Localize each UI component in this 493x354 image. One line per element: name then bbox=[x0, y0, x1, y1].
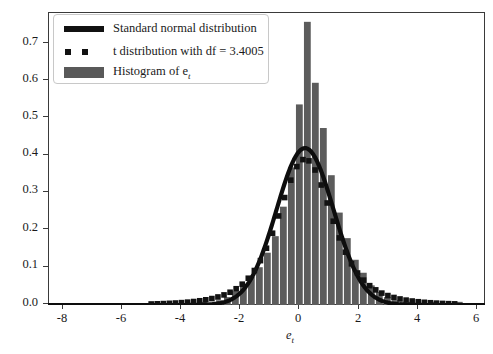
t-distribution-marker bbox=[379, 290, 385, 296]
t-distribution-marker bbox=[324, 200, 330, 206]
ytick-label-5: 0.2 bbox=[4, 220, 38, 235]
t-distribution-marker bbox=[185, 299, 191, 305]
legend-label-histogram: Histogram of et bbox=[113, 64, 191, 81]
t-distribution-marker bbox=[245, 275, 251, 281]
legend-entry-histogram: Histogram of et bbox=[54, 61, 268, 84]
legend-label-tdist: t distribution with df = 3.4005 bbox=[113, 44, 264, 59]
histogram-bar bbox=[288, 167, 295, 305]
t-distribution-marker bbox=[191, 299, 197, 305]
t-distribution-marker bbox=[161, 301, 167, 305]
t-distribution-marker bbox=[197, 298, 203, 304]
histogram-bar bbox=[272, 236, 279, 305]
t-distribution-marker bbox=[330, 218, 336, 224]
histogram-bar bbox=[312, 83, 319, 305]
t-distribution-marker bbox=[306, 158, 312, 164]
t-distribution-marker bbox=[318, 182, 324, 188]
t-distribution-marker bbox=[215, 294, 221, 300]
t-distribution-marker bbox=[221, 292, 227, 298]
t-distribution-marker bbox=[154, 301, 160, 305]
histogram-bar bbox=[320, 128, 327, 305]
legend-key-patch-icon bbox=[61, 65, 107, 81]
t-distribution-marker bbox=[428, 300, 434, 305]
ytick-label-6: 0.1 bbox=[4, 257, 38, 272]
t-distribution-marker bbox=[258, 258, 264, 264]
t-distribution-marker bbox=[452, 301, 458, 305]
t-distribution-marker bbox=[270, 230, 276, 236]
t-distribution-marker bbox=[276, 213, 282, 219]
t-distribution-marker bbox=[179, 300, 185, 305]
t-distribution-marker bbox=[282, 195, 288, 201]
ytick-label-2: 0.5 bbox=[4, 108, 38, 123]
legend-key-line-icon bbox=[61, 21, 107, 37]
t-distribution-marker bbox=[294, 164, 300, 170]
t-distribution-marker bbox=[403, 297, 409, 303]
xtick-label-0: -8 bbox=[48, 311, 76, 326]
t-distribution-marker bbox=[422, 300, 428, 306]
legend-key-squares-icon bbox=[61, 44, 107, 60]
x-axis-title-sub: t bbox=[292, 335, 295, 345]
t-distribution-marker bbox=[409, 298, 415, 304]
t-distribution-marker bbox=[239, 281, 245, 287]
ytick-label-4: 0.3 bbox=[4, 182, 38, 197]
legend-label-normal: Standard normal distribution bbox=[113, 21, 257, 36]
t-distribution-marker bbox=[355, 270, 361, 276]
t-distribution-marker bbox=[446, 301, 452, 305]
legend-label-histogram-sub: t bbox=[188, 71, 191, 81]
t-distribution-marker bbox=[434, 300, 440, 305]
ytick-label-7: 0.0 bbox=[4, 295, 38, 310]
xtick-label-7: 6 bbox=[462, 311, 490, 326]
t-distribution-marker bbox=[167, 301, 173, 305]
t-distribution-marker bbox=[343, 249, 349, 255]
xtick-label-2: -4 bbox=[166, 311, 194, 326]
ytick-label-1: 0.6 bbox=[4, 71, 38, 86]
xtick-label-1: -6 bbox=[107, 311, 135, 326]
t-distribution-marker bbox=[288, 177, 294, 183]
t-distribution-markers bbox=[148, 157, 457, 305]
t-distribution-marker bbox=[233, 286, 239, 292]
legend-entry-normal: Standard normal distribution bbox=[54, 17, 268, 40]
xtick-label-3: -2 bbox=[225, 311, 253, 326]
t-distribution-marker bbox=[203, 297, 209, 303]
histogram-bar bbox=[264, 253, 271, 305]
t-distribution-marker bbox=[415, 299, 421, 305]
xtick-label-5: 2 bbox=[344, 311, 372, 326]
t-distribution-marker bbox=[300, 157, 306, 163]
t-distribution-marker bbox=[264, 245, 270, 251]
t-distribution-marker bbox=[373, 287, 379, 293]
legend-entry-tdist: t distribution with df = 3.4005 bbox=[54, 40, 268, 63]
t-distribution-marker bbox=[349, 261, 355, 267]
t-distribution-marker bbox=[397, 296, 403, 302]
t-distribution-marker bbox=[440, 301, 446, 305]
x-axis-title: et bbox=[286, 328, 294, 345]
xtick-label-6: 4 bbox=[403, 311, 431, 326]
legend-label-histogram-text: Histogram of e bbox=[113, 64, 188, 78]
histogram-bar bbox=[296, 104, 303, 305]
t-distribution-marker bbox=[385, 293, 391, 299]
ytick-label-3: 0.4 bbox=[4, 145, 38, 160]
t-distribution-marker bbox=[367, 283, 373, 289]
t-distribution-marker bbox=[173, 300, 179, 305]
t-distribution-marker bbox=[391, 295, 397, 301]
histogram-bar bbox=[280, 207, 287, 305]
t-distribution-marker bbox=[227, 289, 233, 295]
t-distribution-marker bbox=[337, 235, 343, 241]
t-distribution-marker bbox=[312, 167, 318, 173]
chart-legend[interactable]: Standard normal distribution t distribut… bbox=[53, 14, 269, 84]
t-distribution-marker bbox=[209, 296, 215, 302]
t-distribution-marker bbox=[252, 268, 258, 274]
t-distribution-marker bbox=[361, 277, 367, 283]
t-distribution-marker bbox=[148, 301, 154, 305]
xtick-label-4: 0 bbox=[284, 311, 312, 326]
ytick-label-0: 0.7 bbox=[4, 34, 38, 49]
chart-figure: 0.7 0.6 0.5 0.4 0.3 0.2 0.1 0.0 -8 -6 -4… bbox=[0, 0, 493, 354]
